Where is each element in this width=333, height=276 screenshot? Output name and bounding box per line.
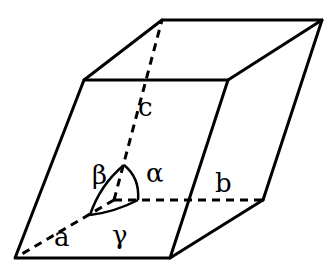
top-right-edge [228, 20, 322, 80]
angle-alpha-arc [124, 165, 138, 200]
angle-alpha-label: α [146, 158, 164, 188]
axis-c-label: c [138, 92, 153, 122]
top-left-edge [84, 20, 162, 80]
bottom-right-edge [170, 200, 263, 258]
axis-a-label: a [54, 222, 70, 252]
angle-beta-label: β [92, 160, 107, 190]
back-face-top-right-edges [162, 20, 322, 200]
angle-gamma-arc [90, 200, 138, 215]
unit-cell-diagram: c b a α β γ [0, 0, 333, 276]
angle-gamma-label: γ [112, 220, 128, 250]
axis-b-label: b [215, 168, 232, 198]
